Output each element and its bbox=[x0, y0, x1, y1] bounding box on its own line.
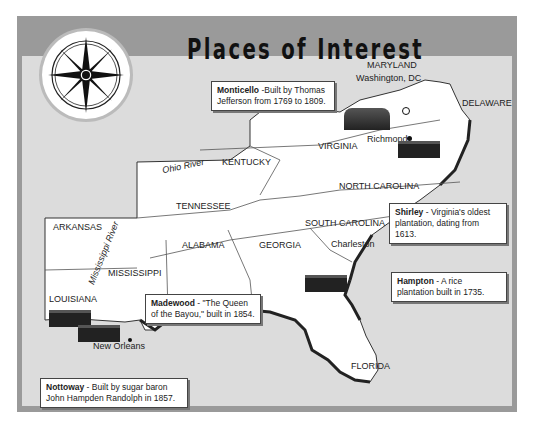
city-label-new-orleans: New Orleans bbox=[93, 341, 145, 351]
state-label-mississippi: MISSISSIPPI bbox=[108, 268, 162, 278]
callout-title: Nottoway bbox=[46, 382, 84, 392]
capital-star-icon bbox=[402, 107, 410, 115]
state-label-south-carolina: SOUTH CAROLINA bbox=[305, 218, 385, 228]
monticello-house-icon bbox=[344, 108, 390, 130]
state-label-maryland: MARYLAND bbox=[367, 60, 417, 70]
city-label-charleston: Charleston bbox=[331, 239, 375, 249]
state-label-virginia: VIRGINIA bbox=[318, 141, 358, 151]
state-label-arkansas: ARKANSAS bbox=[53, 222, 102, 232]
callout-hampton: Hampton - A rice plantation built in 173… bbox=[391, 272, 507, 302]
callout-title: Monticello bbox=[217, 85, 259, 95]
compass-rose-icon bbox=[42, 31, 130, 119]
state-label-alabama: ALABAMA bbox=[182, 240, 225, 250]
callout-monticello: Monticello -Built by Thomas Jefferson fr… bbox=[211, 81, 335, 111]
state-label-florida: FLORIDA bbox=[351, 361, 390, 371]
shirley-house-icon bbox=[398, 141, 440, 158]
state-label-north-carolina: NORTH CAROLINA bbox=[339, 181, 419, 191]
madewood-house-icon bbox=[78, 325, 120, 342]
state-label-louisiana: LOUISIANA bbox=[49, 294, 97, 304]
callout-title: Hampton bbox=[397, 276, 434, 286]
callout-shirley: Shirley - Virginia's oldest plantation, … bbox=[389, 203, 507, 244]
state-label-tennessee: TENNESSEE bbox=[176, 201, 231, 211]
hampton-house-icon bbox=[305, 275, 347, 292]
state-label-delaware: DELAWARE bbox=[462, 98, 512, 108]
state-label-kentucky: KENTUCKY bbox=[222, 157, 271, 167]
callout-madewood: Madewood - "The Queen of the Bayou," bui… bbox=[145, 294, 261, 324]
callout-title: Shirley bbox=[395, 207, 423, 217]
city-label-washington-dc: Washington, DC bbox=[356, 73, 421, 83]
callout-title: Madewood bbox=[151, 298, 195, 308]
state-label-georgia: GEORGIA bbox=[259, 240, 301, 250]
city-dot-icon bbox=[128, 338, 132, 342]
callout-nottoway: Nottoway - Built by sugar baron John Ham… bbox=[40, 378, 188, 408]
